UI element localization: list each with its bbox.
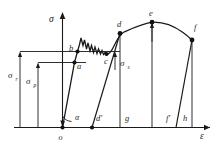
marker-point-b — [75, 49, 79, 53]
marker-dprime — [90, 125, 94, 129]
curve-yield-plateau — [78, 38, 107, 55]
sigma-r-subscript: r — [16, 76, 19, 82]
sigma-s-symbol: σ — [120, 58, 125, 68]
sigma-s-label-group: σ s — [120, 58, 130, 70]
marker-point-a — [72, 60, 76, 64]
axes-group — [14, 12, 210, 130]
stress-strain-figure: σ ε o α σ r σ p σ s a b c d e f d′ g f′ … — [0, 0, 224, 153]
label-h: h — [183, 113, 187, 123]
curve-group — [63, 22, 193, 127]
label-point-f: f — [194, 22, 198, 32]
sigma-r-label-group: σ r — [8, 70, 19, 82]
label-fprime: f′ — [166, 113, 170, 123]
marker-origin — [60, 125, 64, 129]
sigma-s-subscript: s — [128, 64, 130, 70]
angle-alpha-label: α — [75, 113, 80, 122]
curve-necking-descent — [152, 22, 192, 40]
x-axis-arrowhead — [204, 125, 210, 130]
sigma-p-label-group: σ p — [26, 76, 37, 88]
sigma-r-symbol: σ — [8, 70, 13, 80]
curve-strain-hardening — [107, 22, 153, 54]
projection-lines-group — [92, 22, 192, 127]
label-point-e: e — [149, 8, 153, 18]
origin-label: o — [59, 133, 63, 142]
y-axis-arrowhead — [60, 12, 66, 19]
marker-point-e — [150, 20, 155, 25]
label-point-b: b — [69, 43, 73, 53]
label-point-c: c — [104, 56, 108, 66]
x-axis-label: ε — [200, 131, 204, 141]
label-point-d: d — [117, 19, 122, 29]
label-point-a: a — [77, 61, 81, 71]
diagram-canvas: σ ε o α σ r σ p σ s a b c d e f d′ g f′ … — [0, 0, 224, 153]
label-dprime: d′ — [96, 113, 102, 123]
sigma-p-symbol: σ — [26, 76, 31, 86]
y-axis-label: σ — [49, 14, 54, 24]
label-g: g — [125, 113, 129, 123]
marker-point-d — [118, 31, 123, 36]
sigma-p-arrowhead — [36, 63, 40, 69]
sigma-r-arrowhead — [18, 52, 22, 58]
sigma-p-subscript: p — [33, 82, 37, 88]
marker-point-f — [190, 38, 195, 43]
